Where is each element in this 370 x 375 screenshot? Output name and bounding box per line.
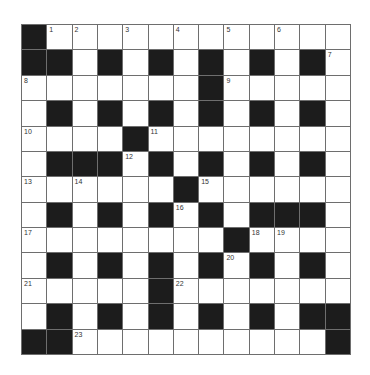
- answer-cell[interactable]: [199, 127, 223, 151]
- answer-cell[interactable]: [123, 203, 147, 227]
- answer-cell[interactable]: 11: [149, 127, 173, 151]
- answer-cell[interactable]: [224, 203, 248, 227]
- answer-cell[interactable]: [275, 152, 299, 176]
- answer-cell[interactable]: [224, 127, 248, 151]
- answer-cell[interactable]: 3: [123, 25, 147, 49]
- answer-cell[interactable]: 12: [123, 152, 147, 176]
- answer-cell[interactable]: [73, 50, 97, 74]
- answer-cell[interactable]: [98, 228, 122, 252]
- answer-cell[interactable]: [174, 330, 198, 354]
- answer-cell[interactable]: 18: [250, 228, 274, 252]
- answer-cell[interactable]: 20: [224, 253, 248, 277]
- answer-cell[interactable]: [174, 253, 198, 277]
- answer-cell[interactable]: 19: [275, 228, 299, 252]
- answer-cell[interactable]: [250, 25, 274, 49]
- answer-cell[interactable]: [275, 279, 299, 303]
- answer-cell[interactable]: [326, 228, 350, 252]
- answer-cell[interactable]: [98, 177, 122, 201]
- answer-cell[interactable]: [98, 76, 122, 100]
- answer-cell[interactable]: [199, 25, 223, 49]
- answer-cell[interactable]: [224, 279, 248, 303]
- answer-cell[interactable]: [174, 228, 198, 252]
- answer-cell[interactable]: [47, 279, 71, 303]
- answer-cell[interactable]: [22, 152, 46, 176]
- answer-cell[interactable]: [123, 101, 147, 125]
- answer-cell[interactable]: 15: [199, 177, 223, 201]
- answer-cell[interactable]: [275, 177, 299, 201]
- answer-cell[interactable]: [47, 228, 71, 252]
- answer-cell[interactable]: [174, 50, 198, 74]
- answer-cell[interactable]: [174, 304, 198, 328]
- answer-cell[interactable]: [22, 203, 46, 227]
- answer-cell[interactable]: [275, 127, 299, 151]
- answer-cell[interactable]: [174, 127, 198, 151]
- answer-cell[interactable]: 5: [224, 25, 248, 49]
- answer-cell[interactable]: [250, 127, 274, 151]
- answer-cell[interactable]: [275, 50, 299, 74]
- answer-cell[interactable]: [149, 228, 173, 252]
- answer-cell[interactable]: [275, 304, 299, 328]
- answer-cell[interactable]: [47, 177, 71, 201]
- answer-cell[interactable]: [73, 203, 97, 227]
- answer-cell[interactable]: 10: [22, 127, 46, 151]
- answer-cell[interactable]: 7: [326, 50, 350, 74]
- answer-cell[interactable]: [326, 177, 350, 201]
- answer-cell[interactable]: [199, 279, 223, 303]
- answer-cell[interactable]: [224, 304, 248, 328]
- answer-cell[interactable]: [123, 177, 147, 201]
- answer-cell[interactable]: [22, 101, 46, 125]
- answer-cell[interactable]: [300, 330, 324, 354]
- answer-cell[interactable]: [149, 76, 173, 100]
- answer-cell[interactable]: 4: [174, 25, 198, 49]
- answer-cell[interactable]: [98, 25, 122, 49]
- answer-cell[interactable]: [224, 101, 248, 125]
- answer-cell[interactable]: [326, 203, 350, 227]
- answer-cell[interactable]: 1: [47, 25, 71, 49]
- answer-cell[interactable]: [73, 279, 97, 303]
- answer-cell[interactable]: [326, 279, 350, 303]
- answer-cell[interactable]: 8: [22, 76, 46, 100]
- answer-cell[interactable]: [275, 330, 299, 354]
- answer-cell[interactable]: [123, 279, 147, 303]
- answer-cell[interactable]: 23: [73, 330, 97, 354]
- answer-cell[interactable]: 9: [224, 76, 248, 100]
- answer-cell[interactable]: [123, 50, 147, 74]
- answer-cell[interactable]: [149, 330, 173, 354]
- answer-cell[interactable]: [326, 152, 350, 176]
- answer-cell[interactable]: [326, 253, 350, 277]
- answer-cell[interactable]: [174, 76, 198, 100]
- answer-cell[interactable]: 17: [22, 228, 46, 252]
- answer-cell[interactable]: [73, 228, 97, 252]
- answer-cell[interactable]: [73, 127, 97, 151]
- answer-cell[interactable]: [73, 101, 97, 125]
- answer-cell[interactable]: [98, 127, 122, 151]
- answer-cell[interactable]: [326, 127, 350, 151]
- answer-cell[interactable]: [250, 76, 274, 100]
- answer-cell[interactable]: [149, 25, 173, 49]
- answer-cell[interactable]: [73, 304, 97, 328]
- answer-cell[interactable]: [98, 330, 122, 354]
- answer-cell[interactable]: [73, 76, 97, 100]
- answer-cell[interactable]: [300, 76, 324, 100]
- answer-cell[interactable]: 13: [22, 177, 46, 201]
- answer-cell[interactable]: [174, 152, 198, 176]
- answer-cell[interactable]: [47, 76, 71, 100]
- answer-cell[interactable]: [300, 127, 324, 151]
- answer-cell[interactable]: [123, 304, 147, 328]
- answer-cell[interactable]: [326, 101, 350, 125]
- answer-cell[interactable]: [250, 279, 274, 303]
- answer-cell[interactable]: [123, 76, 147, 100]
- answer-cell[interactable]: 21: [22, 279, 46, 303]
- answer-cell[interactable]: [326, 25, 350, 49]
- answer-cell[interactable]: [250, 177, 274, 201]
- answer-cell[interactable]: [47, 127, 71, 151]
- answer-cell[interactable]: 16: [174, 203, 198, 227]
- answer-cell[interactable]: [149, 177, 173, 201]
- answer-cell[interactable]: [199, 330, 223, 354]
- answer-cell[interactable]: [224, 152, 248, 176]
- answer-cell[interactable]: [300, 177, 324, 201]
- answer-cell[interactable]: [224, 177, 248, 201]
- answer-cell[interactable]: [250, 330, 274, 354]
- answer-cell[interactable]: 22: [174, 279, 198, 303]
- answer-cell[interactable]: 2: [73, 25, 97, 49]
